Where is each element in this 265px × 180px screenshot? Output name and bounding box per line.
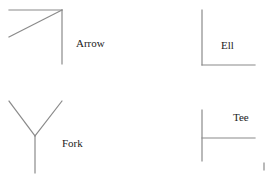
fork-label: Fork: [62, 138, 83, 149]
junction-types-diagram: Arrow Ell Fork Tee: [0, 0, 265, 180]
junction-drawings: [0, 0, 265, 180]
ell-junction-shape: [202, 10, 255, 65]
arrow-junction-shape: [9, 10, 62, 64]
arrow-label: Arrow: [76, 38, 105, 49]
tee-label: Tee: [233, 112, 249, 123]
ell-label: Ell: [221, 40, 234, 51]
fork-junction-shape: [9, 101, 62, 173]
